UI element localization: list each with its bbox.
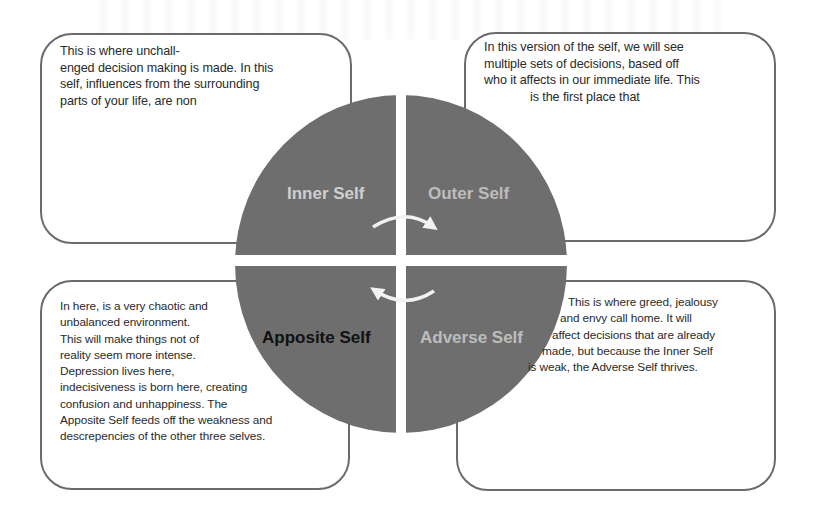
text-line: In this version of the self, we will see bbox=[484, 39, 700, 56]
text-line: self, influences from the surrounding bbox=[60, 76, 273, 93]
inner-self-quadrant bbox=[230, 90, 396, 255]
apposite-self-label: Apposite Self bbox=[262, 328, 371, 347]
text-line: parts of your life, are non bbox=[60, 93, 273, 110]
text-line: multiple sets of decisions, based off bbox=[484, 56, 700, 73]
text-line: reality seem more intense. bbox=[60, 347, 272, 363]
text-line: enged decision making is made. In this bbox=[60, 60, 273, 77]
text-line: indecisiveness is born here, creating bbox=[60, 379, 272, 395]
text-line: This is where greed, jealousy bbox=[540, 294, 760, 310]
apposite-self-description: In here, is a very chaotic and unbalance… bbox=[60, 298, 272, 445]
outer-self-quadrant bbox=[406, 90, 576, 255]
text-line: affect decisions that are already bbox=[540, 327, 760, 343]
text-line: made, but because the Inner Self bbox=[540, 343, 760, 359]
text-line: who it affects in our immediate life. Th… bbox=[484, 72, 700, 89]
text-line: In here, is a very chaotic and bbox=[60, 298, 272, 314]
text-line: Depression lives here, bbox=[60, 363, 272, 379]
text-line: confusion and unhappiness. The bbox=[60, 396, 272, 412]
text-line: This will make things not of bbox=[60, 331, 272, 347]
text-line: descrepencies of the other three selves. bbox=[60, 428, 272, 444]
adverse-self-label: Adverse Self bbox=[420, 328, 523, 347]
adverse-self-description: This is where greed, jealousy and envy c… bbox=[540, 294, 760, 375]
inner-self-label: Inner Self bbox=[287, 184, 365, 203]
outer-self-label: Outer Self bbox=[428, 184, 510, 203]
text-line: Apposite Self feeds off the weakness and bbox=[60, 412, 272, 428]
text-line: unbalanced environment. bbox=[60, 314, 272, 330]
text-line: is the first place that bbox=[484, 89, 700, 106]
text-line: is weak, the Adverse Self thrives. bbox=[528, 359, 760, 375]
text-line: and envy call home. It will bbox=[540, 310, 760, 326]
inner-self-description: This is where unchall- enged decision ma… bbox=[60, 43, 273, 109]
text-line: This is where unchall- bbox=[60, 43, 273, 60]
outer-self-description: In this version of the self, we will see… bbox=[484, 39, 700, 105]
